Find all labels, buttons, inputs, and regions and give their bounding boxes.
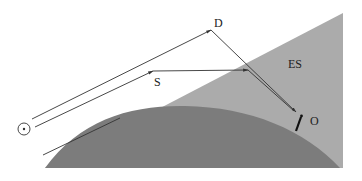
label-s: S [154, 75, 161, 89]
diagram-canvas: D S ES O [0, 0, 362, 181]
label-d: D [214, 16, 223, 30]
label-o: O [310, 114, 319, 128]
label-es: ES [288, 57, 302, 71]
sun-icon [18, 123, 30, 135]
